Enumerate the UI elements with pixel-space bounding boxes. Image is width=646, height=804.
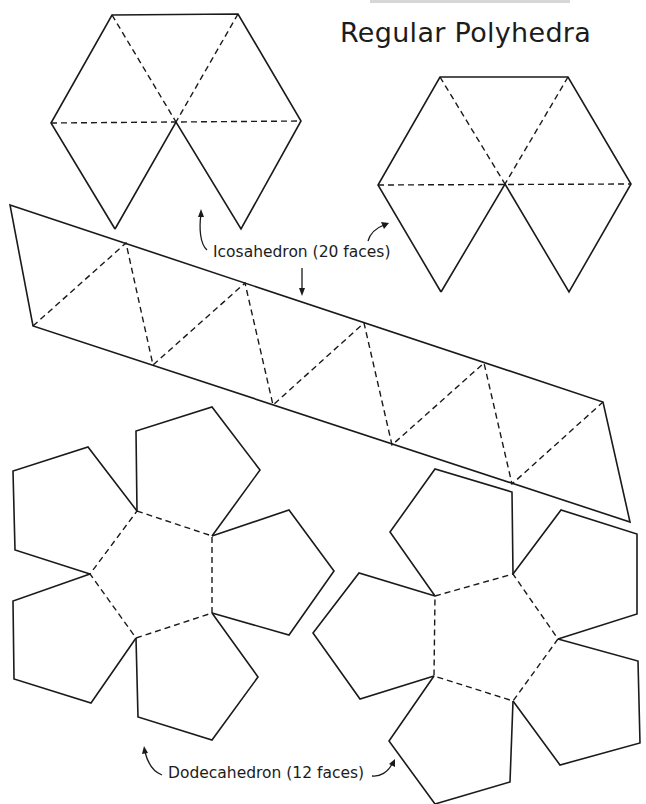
fold-line — [176, 14, 238, 122]
fold-line — [440, 77, 505, 184]
fold-line — [112, 15, 176, 122]
icosahedron-cap-left — [51, 14, 301, 229]
icosahedron-label: Icosahedron (20 faces) — [213, 243, 390, 261]
pentagon-face — [513, 639, 640, 765]
fold-line — [505, 77, 568, 184]
arrowhead-icon — [299, 288, 305, 296]
arrowhead-icon — [142, 746, 148, 754]
dodecahedron-label: Dodecahedron (12 faces) — [168, 764, 364, 782]
dodecahedron-left-net — [13, 407, 334, 740]
pentagon-face — [313, 573, 435, 699]
center-pentagon-folds — [90, 511, 212, 638]
dodecahedron-right-net — [313, 469, 640, 804]
arrow-to-right-net — [372, 764, 392, 776]
polyhedra-nets-drawing — [0, 0, 646, 804]
arrow-to-right-cap — [368, 225, 384, 241]
pentagon-face — [390, 469, 513, 596]
pentagon-face — [212, 510, 334, 635]
strip-fold-lines — [33, 243, 603, 484]
arrow-to-left-cap — [200, 214, 207, 250]
arrowhead-icon — [198, 209, 204, 217]
pentagon-face — [513, 510, 637, 639]
pentagon-face — [13, 447, 137, 574]
pentagon-face — [389, 676, 513, 804]
pentagon-face — [136, 407, 260, 536]
center-pentagon-folds — [434, 574, 558, 701]
pentagon-face — [13, 574, 136, 703]
arrow-to-left-net — [145, 752, 162, 775]
pentagon-face — [136, 613, 258, 740]
icosahedron-cap-right — [378, 77, 631, 292]
arrowhead-icon — [389, 759, 395, 767]
